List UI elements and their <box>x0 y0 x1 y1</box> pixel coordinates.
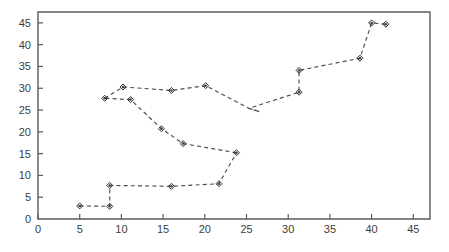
y-tick-label: 5 <box>25 191 31 203</box>
chart-container: 051015202530354045051015202530354045 <box>0 0 449 252</box>
data-point-marker <box>158 126 164 132</box>
data-point-marker <box>369 20 375 26</box>
y-tick-label: 15 <box>19 148 31 160</box>
x-tick-label: 10 <box>115 223 127 235</box>
y-tick-label: 10 <box>19 169 31 181</box>
ticks-group <box>38 23 413 219</box>
y-tick-label: 40 <box>19 39 31 51</box>
plot-frame <box>38 12 430 219</box>
y-tick-label: 45 <box>19 17 31 29</box>
y-tick-label: 25 <box>19 104 31 116</box>
y-tick-label: 0 <box>25 213 31 225</box>
data-point-marker <box>216 181 222 187</box>
x-tick-label: 0 <box>35 223 41 235</box>
x-tick-label: 30 <box>282 223 294 235</box>
data-series-group <box>80 23 386 206</box>
y-tick-label: 30 <box>19 82 31 94</box>
series-line-descending-branch <box>105 98 237 152</box>
axes-group <box>38 12 430 219</box>
y-tick-label: 35 <box>19 60 31 72</box>
tick-labels-group: 051015202530354045051015202530354045 <box>19 17 420 235</box>
y-tick-label: 20 <box>19 126 31 138</box>
x-tick-label: 15 <box>157 223 169 235</box>
series-line-lower-branch <box>80 153 237 207</box>
series-line-upper-branch <box>105 23 386 112</box>
x-tick-label: 40 <box>365 223 377 235</box>
x-tick-label: 25 <box>240 223 252 235</box>
x-tick-label: 20 <box>199 223 211 235</box>
x-tick-label: 45 <box>407 223 419 235</box>
plot-area: 051015202530354045051015202530354045 <box>0 0 449 252</box>
x-tick-label: 35 <box>324 223 336 235</box>
data-markers-group <box>77 20 389 209</box>
x-tick-label: 5 <box>77 223 83 235</box>
